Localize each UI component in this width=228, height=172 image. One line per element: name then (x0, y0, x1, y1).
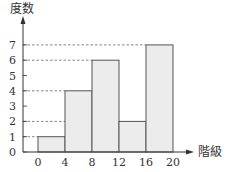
y-axis-label: 度数 (10, 1, 34, 16)
x-axis-label: 階級 (198, 144, 222, 159)
histogram-bar (65, 91, 92, 152)
y-tick-label: 0 (9, 146, 16, 159)
x-tick-label: 20 (166, 156, 180, 169)
x-tick-label: 0 (35, 156, 42, 169)
x-tick-label: 4 (62, 156, 69, 169)
x-tick-labels: 048121620 (35, 156, 181, 169)
histogram-chart: 01234567 048121620 度数 階級 (0, 0, 228, 172)
y-axis-arrow-icon (21, 16, 26, 24)
y-tick-label: 1 (9, 131, 16, 144)
y-tick-label: 6 (9, 54, 16, 67)
x-axis-arrow-icon (186, 150, 194, 155)
histogram-bar (92, 60, 119, 152)
y-tick-labels: 01234567 (9, 39, 27, 159)
histogram-bar (38, 137, 65, 152)
y-tick-label: 4 (9, 85, 16, 98)
histogram-bar (119, 121, 146, 152)
x-tick-label: 8 (89, 156, 96, 169)
y-tick-label: 7 (9, 39, 16, 52)
x-tick-label: 12 (112, 156, 126, 169)
y-tick-label: 2 (9, 115, 16, 128)
x-tick-label: 16 (139, 156, 153, 169)
y-tick-label: 3 (9, 100, 16, 113)
bars (38, 45, 173, 152)
y-tick-label: 5 (9, 70, 16, 83)
histogram-bar (146, 45, 173, 152)
